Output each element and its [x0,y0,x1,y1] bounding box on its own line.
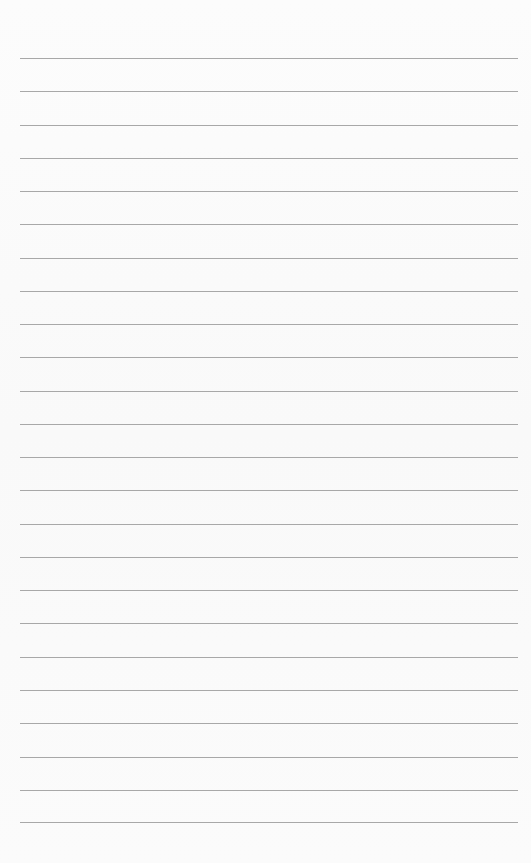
ruled-line [20,191,518,192]
ruled-line [20,224,518,225]
ruled-line [20,424,518,425]
ruled-line [20,291,518,292]
ruled-line [20,790,518,791]
ruled-line [20,357,518,358]
ruled-line [20,457,518,458]
ruled-line [20,723,518,724]
ruled-line [20,524,518,525]
ruled-line [20,590,518,591]
ruled-line [20,91,518,92]
ruled-line [20,690,518,691]
ruled-line [20,557,518,558]
ruled-line [20,657,518,658]
ruled-line [20,623,518,624]
ruled-line [20,324,518,325]
ruled-line [20,158,518,159]
lined-paper [0,0,531,863]
ruled-line [20,822,518,823]
ruled-line [20,757,518,758]
ruled-line [20,391,518,392]
ruled-line [20,490,518,491]
ruled-line [20,58,518,59]
ruled-line [20,258,518,259]
ruled-line [20,125,518,126]
